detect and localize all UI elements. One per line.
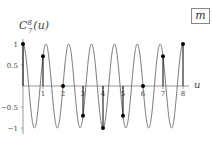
sample-point bbox=[21, 42, 25, 46]
y-tick-label: 0.5 bbox=[7, 62, 18, 70]
sample-point bbox=[141, 84, 145, 88]
x-tick-label: 7 bbox=[161, 90, 165, 98]
chart: 1234567810.5−0.5−1uC87(u) bbox=[0, 0, 212, 150]
x-tick-label: 8 bbox=[181, 90, 185, 98]
sample-point bbox=[81, 114, 85, 118]
y-axis-label: C87(u) bbox=[19, 19, 49, 35]
x-axis-label: u bbox=[194, 79, 200, 90]
sample-point bbox=[121, 114, 125, 118]
sample-point bbox=[61, 84, 65, 88]
sample-point bbox=[41, 54, 45, 58]
sample-point bbox=[161, 54, 165, 58]
legend-box: m bbox=[191, 8, 210, 24]
sample-point bbox=[101, 126, 105, 130]
legend-label: m bbox=[192, 9, 209, 23]
y-tick-label: −1 bbox=[8, 125, 18, 133]
y-tick-label: 1 bbox=[14, 41, 18, 49]
y-tick-label: −0.5 bbox=[1, 104, 18, 112]
x-tick-label: 1 bbox=[41, 90, 45, 98]
sample-point bbox=[181, 42, 185, 46]
